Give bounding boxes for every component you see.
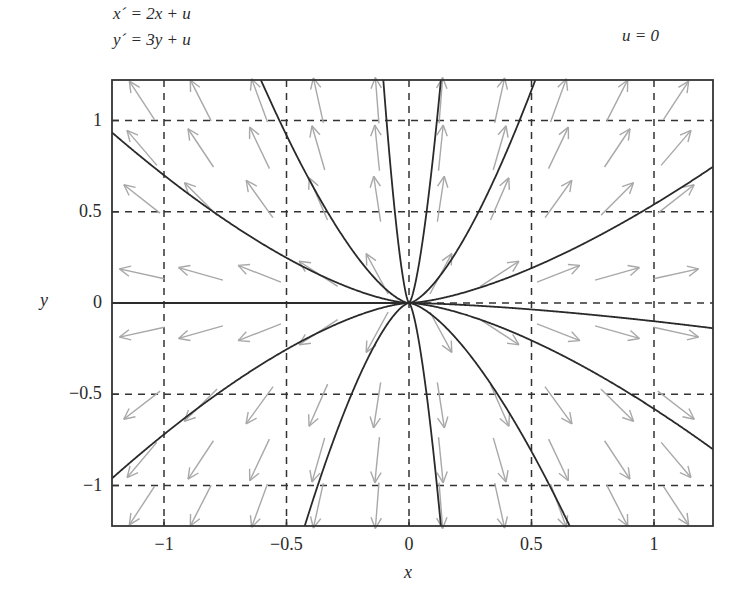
field-arrow-icon (551, 79, 568, 122)
field-arrow-icon (595, 265, 639, 280)
field-arrow-icon (371, 125, 381, 171)
field-arrow-icon (537, 324, 580, 342)
field-arrow-icon (238, 324, 281, 342)
field-arrow-icon (595, 326, 639, 341)
trajectory-line (409, 29, 554, 303)
field-arrow-icon (250, 79, 267, 122)
field-arrow-icon (663, 486, 688, 524)
field-arrow-icon (480, 261, 519, 286)
field-arrow-icon (190, 80, 211, 121)
field-arrow-icon (129, 486, 154, 524)
field-arrow-icon (549, 127, 569, 168)
field-arrow-icon (310, 126, 325, 170)
field-arrow-icon (654, 327, 699, 340)
field-arrow-icon (119, 327, 164, 340)
phase-portrait-plot (0, 0, 752, 614)
field-arrow-icon (309, 384, 328, 426)
x-tick-label: 1 (650, 534, 659, 555)
field-arrow-icon (493, 438, 508, 482)
field-arrow-icon (119, 266, 164, 279)
field-arrow-icon (607, 80, 628, 121)
field-arrow-icon (190, 485, 211, 526)
field-arrow-icon (545, 387, 572, 424)
field-arrow-icon (491, 178, 510, 220)
field-arrow-icon (371, 437, 381, 483)
field-arrow-icon (663, 81, 688, 119)
trajectory-line (380, 29, 409, 303)
trajectory-line (91, 303, 410, 498)
field-arrow-icon (311, 78, 324, 123)
field-arrow-icon (604, 129, 630, 167)
field-arrow-icon (495, 78, 508, 123)
field-arrow-icon (607, 485, 628, 526)
field-arrow-icon (250, 127, 270, 168)
field-arrow-icon (371, 77, 381, 123)
y-axis-label: y (40, 290, 48, 311)
field-arrow-icon (661, 442, 691, 477)
y-tick-label: 0.5 (79, 201, 102, 222)
y-tick-label: 1 (93, 110, 102, 131)
x-tick-label: −0.5 (270, 534, 303, 555)
field-arrow-icon (188, 441, 213, 479)
field-arrow-icon (495, 483, 508, 528)
field-arrow-icon (654, 266, 699, 279)
field-arrow-icon (250, 484, 267, 527)
field-arrow-icon (124, 185, 160, 213)
trajectory-line (409, 303, 446, 577)
field-arrow-icon (370, 382, 381, 427)
field-arrow-icon (250, 439, 270, 481)
trajectory-line (409, 303, 728, 330)
field-arrow-icon (430, 312, 452, 352)
axis-ticks (112, 121, 654, 527)
x-tick-label: −1 (155, 534, 174, 555)
x-axis-label: x (404, 562, 412, 583)
x-tick-label: 0 (405, 534, 414, 555)
y-tick-label: 0 (93, 292, 102, 313)
field-arrow-icon (605, 441, 630, 479)
field-arrow-icon (246, 387, 273, 424)
field-arrow-icon (179, 265, 223, 280)
field-arrow-icon (437, 437, 447, 483)
field-arrow-icon (179, 326, 223, 341)
field-arrow-icon (437, 382, 448, 427)
field-arrow-icon (601, 183, 633, 216)
field-arrow-icon (370, 176, 380, 221)
field-arrow-icon (124, 391, 160, 419)
y-tick-label: −1 (83, 475, 102, 496)
trajectory-line (409, 157, 728, 303)
field-arrow-icon (549, 439, 569, 481)
x-tick-label: 0.5 (520, 534, 543, 555)
field-arrow-icon (537, 264, 580, 282)
field-arrow-icon (437, 176, 447, 221)
field-arrow-icon (371, 483, 381, 529)
y-tick-label: −0.5 (69, 383, 102, 404)
field-arrow-icon (490, 384, 509, 426)
trajectory-line (91, 114, 410, 303)
field-arrow-icon (129, 81, 154, 119)
trajectory-line (409, 29, 446, 303)
trajectory-line (409, 303, 594, 578)
trajectory-line (409, 303, 728, 460)
field-arrow-icon (437, 125, 447, 171)
field-arrow-icon (127, 442, 157, 477)
field-arrow-icon (310, 438, 325, 482)
field-arrow-icon (188, 129, 214, 167)
field-arrow-icon (366, 312, 388, 352)
field-arrow-icon (238, 264, 281, 282)
field-arrow-icon (661, 130, 691, 165)
